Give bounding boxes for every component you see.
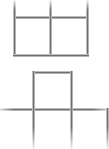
stick-lower-right-vertical: [70, 108, 73, 149]
stick-lower-far-right-vertical: [106, 108, 109, 149]
stick-lower-left-vertical: [32, 108, 35, 149]
puzzle-canvas: Matchstick puzzle figures: [0, 0, 109, 149]
stick-upper-square-right: [70, 71, 73, 111]
stick-row-horizontal-right: [70, 108, 109, 111]
stick-upper-square-top: [32, 71, 73, 74]
stick-row-horizontal-left: [0, 108, 33, 111]
stick-upper-square-left: [32, 71, 35, 111]
figure-t-shape-squares: [0, 0, 109, 149]
stick-row-horizontal-mid: [32, 108, 73, 111]
